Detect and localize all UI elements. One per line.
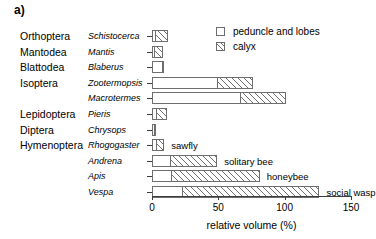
bar-annotation: honeybee: [267, 171, 309, 182]
bar-segment-peduncle-and-lobes: [152, 77, 218, 89]
bar-segment-calyx: [162, 61, 165, 73]
chart-row: Apishoneybee: [0, 168, 374, 185]
order-label: Diptera: [20, 124, 54, 136]
bar-segment-peduncle-and-lobes: [152, 170, 172, 182]
chart-row: IsopteraZootermopsis: [0, 75, 374, 92]
bar-annotation: sawfly: [171, 140, 197, 151]
genus-label: Apis: [88, 171, 145, 181]
bar-segment-calyx: [155, 30, 168, 42]
bar-segment-calyx: [240, 92, 286, 104]
chart-row: HymenopteraRhogogastersawfly: [0, 137, 374, 154]
chart-row: Macrotermes: [0, 90, 374, 107]
chart-row: DipteraChrysops: [0, 122, 374, 139]
chart-row: MantodeaMantis: [0, 44, 374, 61]
order-label: Blattodea: [20, 61, 64, 73]
bar-segment-calyx: [154, 46, 163, 58]
x-axis-tick: [285, 196, 286, 200]
genus-label: Blaberus: [88, 62, 145, 72]
genus-label: Andrena: [88, 156, 145, 166]
panel-label: a): [14, 3, 25, 17]
bar-segment-calyx: [170, 155, 218, 167]
genus-label: Rhogogaster: [88, 140, 145, 150]
genus-label: Macrotermes: [88, 93, 145, 103]
genus-label: Chrysops: [88, 125, 145, 135]
x-axis-tick-label: 50: [203, 202, 233, 213]
x-axis-line: [152, 196, 351, 197]
bar-segment-calyx: [217, 77, 253, 89]
chart-row: BlattodeaBlaberus: [0, 59, 374, 76]
x-axis-tick-label: 0: [137, 202, 167, 213]
order-label: Orthoptera: [20, 30, 70, 42]
bar-segment-calyx: [171, 170, 260, 182]
chart-row: Vespasocial wasp: [0, 184, 374, 201]
x-axis-tick: [218, 196, 219, 200]
order-label: Hymenoptera: [20, 139, 83, 151]
x-axis-tick-label: 100: [270, 202, 300, 213]
genus-label: Pieris: [88, 109, 145, 119]
bar-segment-peduncle-and-lobes: [152, 92, 241, 104]
x-axis-tick: [152, 196, 153, 200]
bar-annotation: solitary bee: [224, 156, 273, 167]
genus-label: Vespa: [88, 187, 145, 197]
bar-segment-calyx: [156, 139, 164, 151]
order-label: Lepidoptera: [20, 108, 75, 120]
order-label: Mantodea: [20, 46, 67, 58]
chart-row: OrthopteraSchistocerca: [0, 28, 374, 45]
order-label: Isoptera: [20, 77, 58, 89]
chart-row: LepidopteraPieris: [0, 106, 374, 123]
bar-segment-peduncle-and-lobes: [152, 155, 171, 167]
genus-label: Mantis: [88, 47, 145, 57]
bar-segment-calyx: [156, 108, 167, 120]
bar-segment-calyx: [154, 124, 156, 136]
genus-label: Zootermopsis: [88, 78, 145, 88]
x-axis-tick-label: 150: [336, 202, 366, 213]
x-axis-title: relative volume (%): [152, 219, 351, 231]
chart-row: Andrenasolitary bee: [0, 153, 374, 170]
x-axis-tick: [351, 196, 352, 200]
genus-label: Schistocerca: [88, 31, 145, 41]
